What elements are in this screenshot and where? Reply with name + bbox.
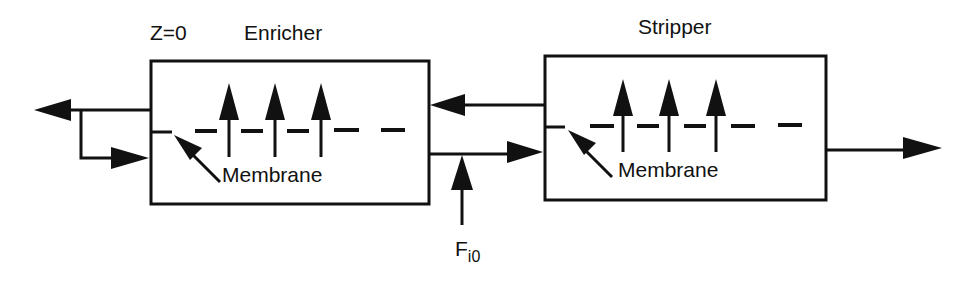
- process-diagram: [0, 0, 972, 281]
- enricher-membrane-label: Membrane: [222, 164, 322, 185]
- outlet-left-arrowhead: [34, 99, 71, 121]
- enricher-title: Enricher: [244, 22, 322, 43]
- feed-label: Fi0: [455, 238, 480, 259]
- feed-label-subscript: i0: [468, 248, 480, 265]
- stripper-membrane-label: Membrane: [618, 159, 718, 180]
- feed-label-main: F: [455, 237, 468, 260]
- z0-label: Z=0: [150, 22, 187, 43]
- outlet-right-arrowhead: [903, 137, 942, 159]
- feed-arrowhead: [451, 155, 473, 190]
- stripper-title: Stripper: [638, 16, 712, 37]
